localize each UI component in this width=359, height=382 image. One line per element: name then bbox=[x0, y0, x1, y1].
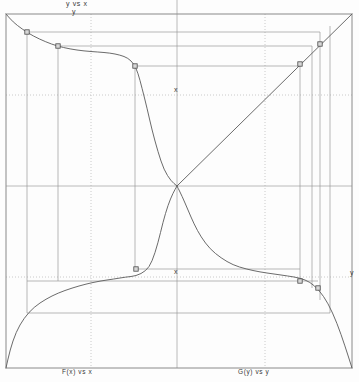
data-point-marker bbox=[298, 62, 302, 66]
axis-label-x-upper: x bbox=[174, 86, 178, 93]
figure-container: y vs x y x x y F(x) vs x G(y) vs y bbox=[0, 0, 359, 382]
data-point-marker bbox=[133, 64, 137, 68]
guide-lines-layer bbox=[27, 26, 330, 313]
axis-label-y-right: y bbox=[350, 269, 354, 276]
data-point-marker bbox=[25, 30, 29, 34]
data-point-marker bbox=[56, 44, 60, 48]
data-point-markers-layer bbox=[25, 30, 322, 290]
caption-g-of-y-vs-y: G(y) vs y bbox=[238, 368, 269, 375]
curve-series-0 bbox=[6, 14, 177, 186]
data-point-marker bbox=[134, 267, 138, 271]
curve-series-1 bbox=[6, 186, 177, 368]
axis-label-x-lower: x bbox=[174, 268, 178, 275]
axis-label-y-top: y bbox=[72, 8, 76, 15]
curve-series-3 bbox=[177, 14, 352, 186]
caption-f-of-x-vs-x: F(x) vs x bbox=[62, 368, 92, 375]
data-point-marker bbox=[316, 286, 320, 290]
data-point-marker bbox=[318, 42, 322, 46]
chart-title-y-vs-x: y vs x bbox=[66, 0, 88, 7]
plot-canvas bbox=[0, 0, 359, 382]
data-point-marker bbox=[298, 279, 302, 283]
